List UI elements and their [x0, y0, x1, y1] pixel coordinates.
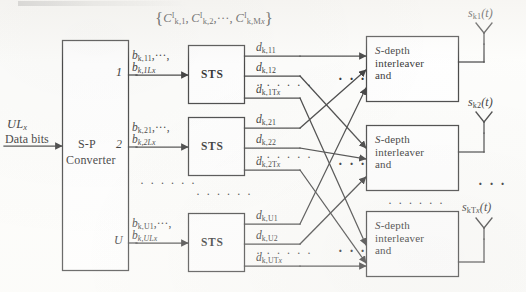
- sts-label-2: STS: [201, 140, 224, 152]
- d-label-1-3: dk,1Tx: [256, 84, 280, 96]
- d-label-3-2: dk,U2: [256, 230, 278, 242]
- input-label-line2: Data bits: [5, 133, 49, 145]
- code-set-label: {CIk,1, CIk,2,···, CIk,Mx}: [155, 10, 273, 28]
- cross-u2-to-ilv2: [300, 177, 366, 244]
- antenna-2: [476, 112, 492, 133]
- branch-3-bits-line2: bk,ULx: [132, 230, 157, 242]
- converter-port-2: 2: [116, 138, 122, 150]
- d-label-1-2: dk,12: [256, 62, 276, 74]
- antenna-column-ellipsis: · · ·: [478, 177, 507, 193]
- antenna-3: [476, 218, 492, 239]
- sp-converter-label-line1: S-P: [78, 137, 96, 152]
- d-label-3-1: dk,U1: [256, 210, 278, 222]
- code-set-close-brace: }: [265, 9, 273, 28]
- d-label-1-1: dk,11: [256, 42, 276, 54]
- antenna-label-1: sk1(t): [468, 7, 493, 19]
- figure-canvas: ULx Data bits S-P Converter 1 2 U {CIk,1…: [0, 0, 526, 292]
- antenna-label-2: sk2(t): [468, 96, 493, 108]
- converter-vertical-ellipsis: · · · · · ·: [140, 176, 197, 191]
- sp-converter-label-line2: Converter: [66, 153, 116, 168]
- d-label-2-2: dk,22: [256, 134, 276, 146]
- crossbar-ellipsis-2: · · ·: [338, 157, 367, 173]
- interleaver-column-ellipsis: · · · · · ·: [388, 196, 445, 211]
- antenna-1: [476, 23, 492, 44]
- crossbar-ellipsis-3: · · ·: [338, 244, 367, 260]
- branch-2-bits-line2: bk,2Lx: [132, 134, 156, 146]
- interleaver-label-1: S-depth interleaver and: [375, 44, 424, 82]
- converter-port-u: U: [114, 234, 123, 246]
- sts-column-ellipsis: · · · · · ·: [196, 187, 253, 202]
- antenna-label-3: skTx(t): [462, 201, 491, 213]
- interleaver-label-2: S-depth interleaver and: [375, 133, 424, 171]
- sts-label-3: STS: [201, 236, 224, 248]
- interleaver-label-3: S-depth interleaver and: [375, 219, 424, 257]
- crossbar-ellipsis-1: · · ·: [338, 72, 367, 88]
- branch-1-bits-line2: bk,1Lx: [132, 62, 156, 74]
- converter-port-1: 1: [116, 66, 122, 78]
- d-label-2-1: dk,21: [256, 114, 276, 126]
- d-label-3-3: dk,UTx: [256, 252, 282, 264]
- input-label-line1: ULx: [7, 118, 27, 131]
- sts-label-1: STS: [201, 68, 224, 80]
- d-label-2-3: dk,2Tx: [256, 156, 280, 168]
